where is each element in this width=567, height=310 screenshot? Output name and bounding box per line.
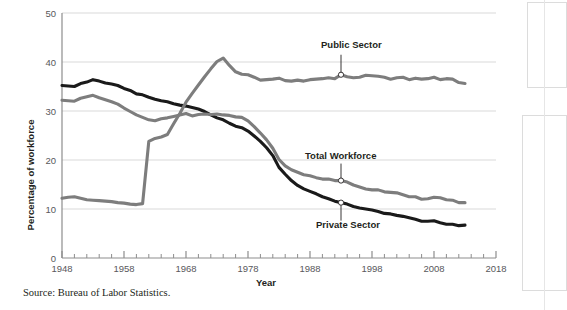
data-series-group xyxy=(62,58,465,226)
series-label-private-sector: Private Sector xyxy=(316,219,380,230)
series-line-public-sector xyxy=(62,58,465,205)
y-tick-label: 30 xyxy=(45,106,56,117)
x-tick-label: 1988 xyxy=(299,263,320,274)
annotation-marker xyxy=(338,200,343,205)
x-tick-label: 1948 xyxy=(51,263,72,274)
y-axis-tick-labels: 01020304050 xyxy=(45,8,56,264)
y-tick-label: 50 xyxy=(45,8,56,19)
series-annotations: Public SectorTotal WorkforcePrivate Sect… xyxy=(305,39,382,230)
x-tick-label: 1978 xyxy=(237,263,258,274)
x-axis-title: Year xyxy=(256,277,276,288)
y-tick-label: 10 xyxy=(45,204,56,215)
x-tick-label: 1968 xyxy=(175,263,196,274)
x-axis-ticks xyxy=(62,251,496,258)
y-axis-title: Percentage of workforce xyxy=(25,120,36,231)
x-tick-label: 2018 xyxy=(485,263,506,274)
y-tick-label: 40 xyxy=(45,57,56,68)
x-axis-tick-labels: 19481958196819781988199820082018 xyxy=(51,263,506,274)
series-label-public-sector: Public Sector xyxy=(321,39,382,50)
annotation-marker xyxy=(338,72,343,77)
x-tick-label: 1998 xyxy=(361,263,382,274)
annotation-marker xyxy=(338,178,343,183)
y-tick-label: 20 xyxy=(45,155,56,166)
x-tick-label: 2008 xyxy=(423,263,444,274)
x-tick-label: 1958 xyxy=(113,263,134,274)
series-label-total-workforce: Total Workforce xyxy=(305,150,376,161)
y-tick-label: 0 xyxy=(51,253,56,264)
source-note: Source: Bureau of Labor Statistics. xyxy=(23,287,170,298)
